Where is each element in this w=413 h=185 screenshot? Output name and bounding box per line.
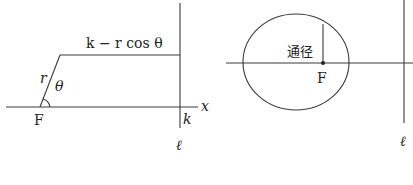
right-figure: 通径 F ℓ	[226, 0, 413, 149]
angle-label: θ	[55, 78, 64, 94]
axis-label: x	[201, 98, 209, 114]
latus-rectum-label: 通径	[287, 44, 313, 59]
radius-label: r	[40, 70, 48, 86]
ellipse	[243, 14, 349, 110]
focus-point	[321, 61, 325, 65]
focus-label: F	[34, 112, 44, 128]
directrix-label: ℓ	[176, 137, 182, 153]
left-figure: k − r cos θ r θ F x k ℓ	[6, 3, 209, 153]
directrix-label: ℓ	[400, 133, 406, 149]
top-segment-label: k − r cos θ	[86, 35, 163, 51]
angle-arc	[43, 99, 50, 107]
focus-label: F	[317, 70, 327, 86]
conic-diagram: k − r cos θ r θ F x k ℓ 通径 F ℓ	[0, 0, 413, 185]
distance-label: k	[183, 111, 191, 127]
